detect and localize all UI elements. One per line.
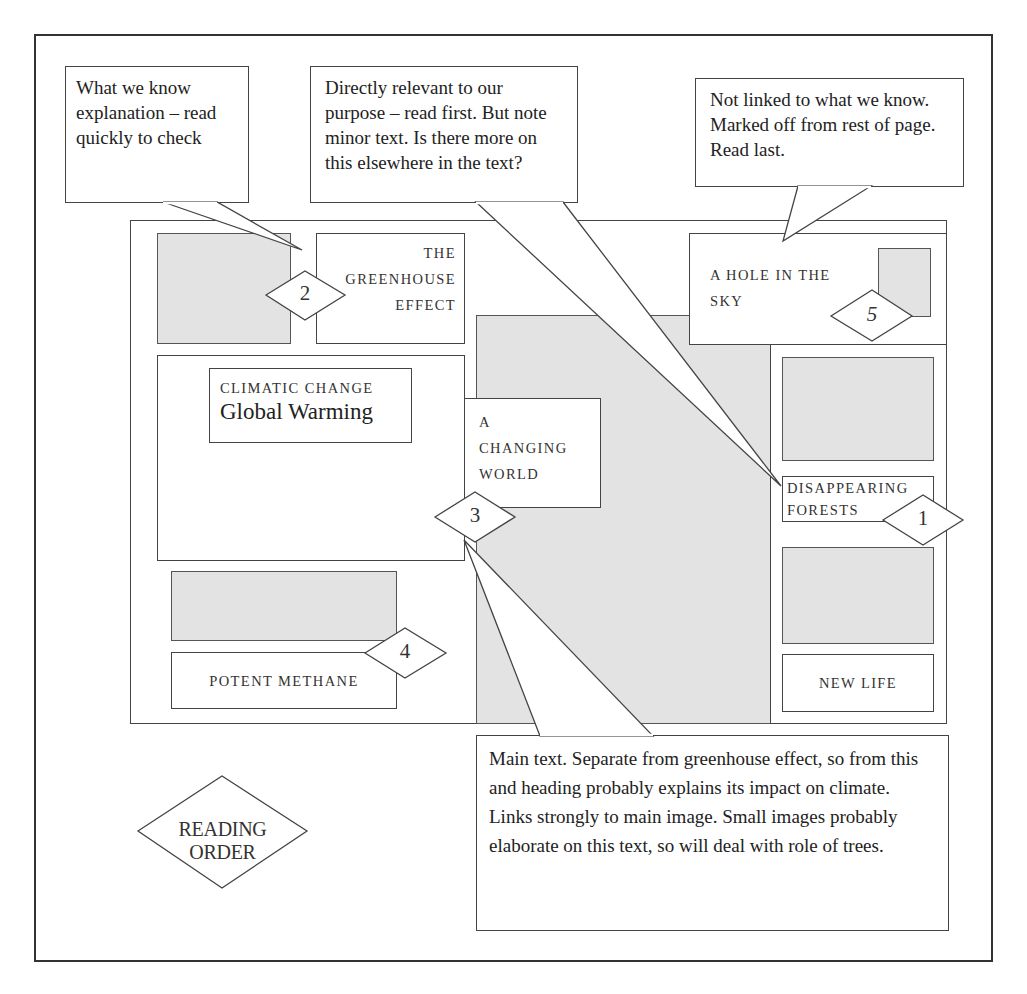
marker-1: 1 [903,506,943,531]
legend-label: READING ORDER [150,818,295,864]
marker-3: 3 [455,503,495,528]
marker-4: 4 [385,639,425,664]
marker-2: 2 [285,281,325,306]
tail-main-text [464,540,653,736]
tail-what-we-know [163,202,302,250]
tail-not-linked [783,186,871,241]
tail-directly-relevant [476,202,781,486]
marker-5: 5 [852,302,892,327]
